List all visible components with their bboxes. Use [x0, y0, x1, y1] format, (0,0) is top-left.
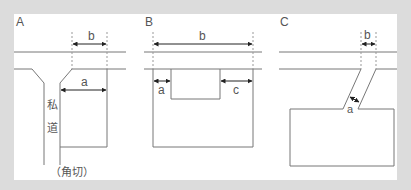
dimension-label-a: a — [347, 103, 354, 115]
panel-a-title: A — [16, 15, 24, 29]
dimension-arrow-a — [350, 97, 359, 102]
dimension-label-b: b — [199, 29, 206, 43]
private-road-left-edge — [14, 69, 44, 165]
private-road-label-2: 道 — [47, 121, 58, 134]
dimension-label-a: a — [81, 75, 88, 89]
dimension-label-c: c — [233, 83, 239, 97]
lot-frontage-diagrams: A b a 私 道 （角切） B b a c C — [0, 0, 411, 190]
dimension-label-a: a — [158, 83, 165, 97]
lot-notch — [171, 69, 220, 99]
private-road-label-1: 私 — [47, 99, 58, 111]
private-road-right-edge — [60, 69, 126, 165]
dimension-label-b: b — [364, 28, 371, 42]
passage-right-edge — [358, 69, 376, 109]
panel-b-title: B — [145, 15, 153, 29]
dimension-label-b: b — [88, 29, 95, 43]
panel-a: A b a 私 道 （角切） — [14, 15, 126, 178]
panel-c-title: C — [280, 15, 289, 29]
panel-b: B b a c — [144, 15, 262, 147]
panel-c: C b a — [279, 15, 397, 166]
lot-outline — [290, 109, 394, 166]
corner-cut-caption: （角切） — [50, 166, 94, 178]
